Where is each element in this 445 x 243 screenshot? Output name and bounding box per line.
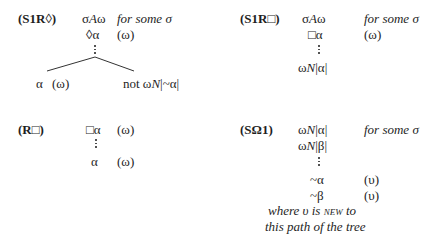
annotation: (υ): [364, 173, 379, 187]
formula: ωN|α|: [298, 123, 327, 137]
annotation: (ω): [117, 155, 134, 169]
annotation: for some σ: [364, 123, 419, 137]
note-line-1: where υ is new to: [268, 204, 356, 218]
annotation: for some σ: [364, 12, 419, 26]
note-text: where υ is: [268, 203, 324, 218]
note-line-2: this path of the tree: [265, 220, 366, 234]
formula: □α: [86, 123, 101, 137]
rule-label: (SΩ1): [240, 123, 273, 137]
rule-label: (R□): [18, 123, 44, 137]
vertical-ellipsis: [318, 45, 320, 56]
note-text: to: [343, 203, 356, 218]
formula: σAω: [302, 12, 326, 26]
formula: ~α: [310, 173, 324, 187]
note-smallcaps: new: [324, 203, 343, 218]
annotation: (ω): [117, 123, 134, 137]
annotation: (ω): [364, 28, 381, 42]
formula: ωN|α|: [298, 61, 327, 75]
formula: α: [91, 155, 98, 169]
rule-label: (S1R□): [240, 12, 280, 26]
vertical-ellipsis: [95, 139, 97, 150]
formula: ~β: [310, 189, 324, 203]
formula: □α: [308, 28, 323, 42]
formula: ωN|β|: [298, 139, 327, 153]
annotation: (υ): [364, 189, 379, 203]
vertical-ellipsis: [318, 157, 320, 168]
